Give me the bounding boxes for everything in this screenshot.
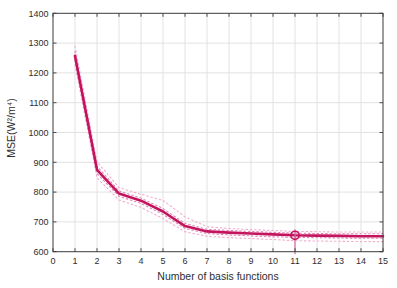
y-axis-title: MSE(W²/m⁴) [5,98,17,157]
x-axis-title: Number of basis functions [157,270,278,282]
y-tick-label: 1400 [28,9,48,19]
x-tick-label: 10 [268,256,278,266]
x-tick-label: 13 [334,256,344,266]
x-tick-label: 12 [312,256,322,266]
y-tick-label: 1000 [28,128,48,138]
line-chart-plot-area: 0123456789101112131415600700800900100011… [0,0,397,288]
y-tick-label: 1200 [28,68,48,78]
y-tick-label: 1300 [28,38,48,48]
x-tick-label: 3 [116,256,121,266]
tick-labels: 0123456789101112131415600700800900100011… [28,9,388,267]
mse-vs-basis-functions-figure: 0123456789101112131415600700800900100011… [0,0,397,288]
x-tick-label: 9 [248,256,253,266]
x-tick-label: 8 [226,256,231,266]
x-tick-label: 6 [182,256,187,266]
y-tick-label: 800 [33,187,48,197]
x-tick-label: 15 [378,256,388,266]
x-tick-label: 4 [138,256,143,266]
y-tick-label: 1100 [29,98,48,108]
y-tick-label: 900 [33,158,48,168]
grid-lines [53,13,383,251]
x-tick-label: 0 [50,256,55,266]
x-tick-label: 5 [160,256,165,266]
x-tick-label: 11 [290,256,299,266]
x-tick-label: 2 [94,256,99,266]
y-tick-label: 700 [33,217,48,227]
x-tick-label: 14 [356,256,366,266]
x-tick-label: 1 [72,256,77,266]
y-tick-label: 600 [33,247,48,257]
x-tick-label: 7 [204,256,209,266]
